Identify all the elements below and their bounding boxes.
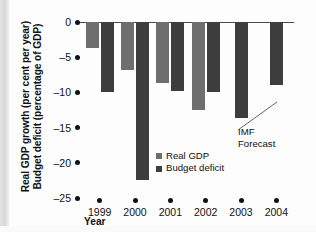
bar-group (121, 22, 149, 180)
x-axis-tick-label: 2001 (153, 206, 187, 218)
bar (156, 22, 169, 83)
x-axis-tick-dot-icon (203, 198, 208, 203)
bar (171, 22, 184, 91)
annotation-line2: Forecast (238, 138, 275, 150)
chart-figure: Real GDP growth (per cent per year) Budg… (0, 0, 316, 232)
y-axis-tick-dot-icon (75, 90, 80, 95)
bar (235, 22, 248, 118)
bar-group (235, 22, 248, 118)
bar-group (192, 22, 220, 110)
bar (207, 22, 220, 92)
y-axis-tick-dot-icon (75, 55, 80, 60)
bar-group (86, 22, 114, 92)
chart-legend: Real GDP Budget deficit (156, 150, 224, 175)
x-axis-tick-label: 2003 (224, 206, 258, 218)
bar (121, 22, 134, 70)
y-axis-title-line1: Real GDP growth (per cent per year) (20, 12, 32, 202)
legend-label-real-gdp: Real GDP (166, 150, 209, 162)
bar-group (270, 22, 283, 85)
bar (192, 22, 205, 110)
x-axis-tick-label: 2004 (259, 206, 293, 218)
x-axis-tick-dot-icon (133, 198, 138, 203)
y-axis-tick-label: –10 (53, 86, 71, 98)
y-axis-tick-label: –5 (59, 51, 71, 63)
legend-swatch-icon-budget-deficit (156, 166, 162, 172)
x-axis: 199920002001200220032004 (82, 198, 294, 232)
bar (86, 22, 99, 48)
bar (101, 22, 114, 92)
x-axis-tick: 2001 (153, 198, 187, 218)
y-axis-title-line2: Budget deficit (percentage of GDP) (32, 12, 44, 202)
y-axis-tick-label: –25 (53, 192, 71, 204)
page-edge-strip (0, 0, 9, 232)
x-axis-tick-dot-icon (97, 198, 102, 203)
legend-item-real-gdp: Real GDP (156, 150, 224, 162)
annotation-imf-forecast: IMF Forecast (238, 126, 275, 149)
y-axis-tick-dot-icon (75, 125, 80, 130)
legend-item-budget-deficit: Budget deficit (156, 162, 224, 174)
y-axis-tick-dot-icon (75, 196, 80, 201)
x-axis-tick: 2004 (259, 198, 293, 218)
legend-swatch-icon-real-gdp (156, 153, 162, 159)
y-axis-tick-label: –15 (53, 122, 71, 134)
x-axis-tick: 2002 (189, 198, 223, 218)
x-axis-tick-dot-icon (168, 198, 173, 203)
y-axis-tick-dot-icon (75, 20, 80, 25)
x-axis-tick: 1999 (83, 198, 117, 218)
x-axis-tick-label: 2002 (189, 206, 223, 218)
bar-group (156, 22, 184, 91)
bar (270, 22, 283, 85)
x-axis-tick-dot-icon (239, 198, 244, 203)
y-axis-title: Real GDP growth (per cent per year) Budg… (20, 12, 43, 202)
x-axis-tick: 2003 (224, 198, 258, 218)
x-axis-tick-dot-icon (274, 198, 279, 203)
y-axis-tick-dot-icon (75, 160, 80, 165)
bar (136, 22, 149, 180)
x-axis-tick: 2000 (118, 198, 152, 218)
x-axis-title: Year (84, 216, 106, 227)
y-axis-tick-label: –20 (53, 157, 71, 169)
y-axis-tick-label: 0 (65, 16, 71, 28)
annotation-line1: IMF (238, 126, 275, 138)
x-axis-tick-label: 2000 (118, 206, 152, 218)
legend-label-budget-deficit: Budget deficit (166, 162, 224, 174)
